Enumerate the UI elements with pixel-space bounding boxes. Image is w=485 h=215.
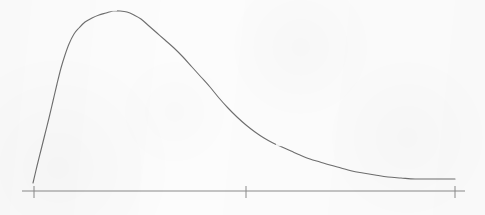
distribution-curve-line xyxy=(33,11,455,183)
curve-ink-gaps xyxy=(110,10,281,145)
distribution-curve-figure xyxy=(0,0,485,215)
plot-svg xyxy=(0,0,485,215)
x-axis-ticks xyxy=(34,186,455,198)
